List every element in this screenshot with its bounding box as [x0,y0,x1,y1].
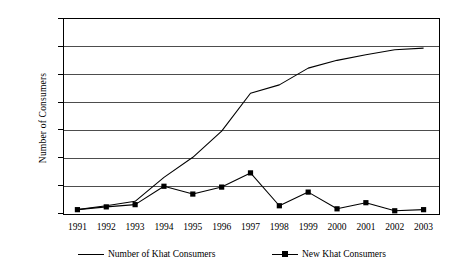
gridline [64,158,439,159]
x-tick-label: 2003 [404,222,444,232]
gridline [64,74,439,75]
y-axis-title: Number of Consumers [38,18,48,218]
legend-label-total: Number of Khat Consumers [108,249,215,260]
gridline [64,46,439,47]
legend-line-square-icon [272,250,298,260]
gridlines [64,19,439,214]
plot-area [63,18,440,215]
legend-item-new-khat-consumers: New Khat Consumers [272,249,386,260]
chart-legend: Number of Khat Consumers New Khat Consum… [0,249,460,269]
gridline [64,186,439,187]
legend-item-number-of-khat-consumers: Number of Khat Consumers [78,249,215,260]
legend-line-icon [78,250,104,260]
gridline [64,130,439,131]
legend-label-new: New Khat Consumers [302,249,386,260]
gridline [64,102,439,103]
khat-consumers-chart: Number of Consumers 05001000150020002500… [0,0,460,275]
